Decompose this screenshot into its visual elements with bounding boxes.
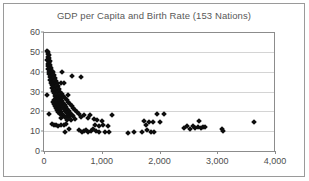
plot-area: 0102030405060 01,0002,0003,0004,000 [43,32,275,152]
x-tick-label: 0 [41,156,46,166]
y-tick-label: 30 [30,87,40,97]
x-tick-mark [102,151,103,154]
data-point [69,73,75,79]
data-point [44,93,50,99]
data-point [131,130,137,136]
y-tick-label: 50 [30,47,40,57]
x-tick-label: 3,000 [206,156,229,166]
data-point [125,130,131,136]
data-point [161,111,167,117]
y-tick-label: 20 [30,106,40,116]
data-point [106,129,112,135]
x-tick-label: 4,000 [264,156,287,166]
data-point [96,129,102,135]
data-point [78,74,84,80]
data-point [251,119,257,125]
x-tick-label: 2,000 [148,156,171,166]
data-point [85,115,91,121]
scatter-points [44,32,275,151]
x-tick-mark [44,151,45,154]
data-point [61,80,67,86]
data-point [157,119,163,125]
y-tick-label: 60 [30,27,40,37]
data-point [47,111,53,117]
data-point [151,130,157,136]
plot-right-border [274,32,275,151]
x-tick-mark [160,151,161,154]
data-point [59,69,65,75]
y-tick-label: 0 [35,146,40,156]
x-tick-mark [217,151,218,154]
x-tick-mark [275,151,276,154]
data-point [150,119,156,125]
data-point [154,111,160,117]
chart-frame: GDP per Capita and Birth Rate (153 Natio… [3,3,305,177]
y-tick-label: 40 [30,67,40,77]
chart-title: GDP per Capita and Birth Rate (153 Natio… [4,10,304,21]
data-point [202,124,208,130]
data-point [78,114,84,120]
data-point [109,112,115,118]
x-tick-label: 1,000 [90,156,113,166]
y-tick-label: 10 [30,126,40,136]
data-point [105,123,111,129]
